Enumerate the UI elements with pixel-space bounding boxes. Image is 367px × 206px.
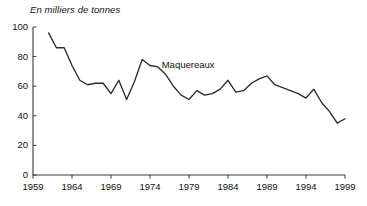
x-tick-label: 1969 bbox=[91, 181, 131, 192]
chart-series-lines bbox=[49, 33, 345, 123]
y-tick-label: 20 bbox=[4, 139, 28, 150]
chart-plot-area bbox=[0, 0, 367, 206]
chart-axes bbox=[33, 27, 345, 179]
x-tick-label: 1974 bbox=[130, 181, 170, 192]
y-tick-label: 80 bbox=[4, 51, 28, 62]
series-annotation-label: Maquereaux bbox=[162, 59, 215, 70]
x-tick-label: 1999 bbox=[325, 181, 365, 192]
y-tick-label: 60 bbox=[4, 80, 28, 91]
axis-lines bbox=[33, 27, 345, 175]
series-line-0 bbox=[49, 33, 345, 123]
y-tick-label: 100 bbox=[4, 21, 28, 32]
x-tick-label: 1984 bbox=[208, 181, 248, 192]
x-tick-label: 1979 bbox=[169, 181, 209, 192]
chart-container: En milliers de tonnes 020406080100 19591… bbox=[0, 0, 367, 206]
y-tick-label: 40 bbox=[4, 110, 28, 121]
x-tick-label: 1989 bbox=[247, 181, 287, 192]
y-tick-label: 0 bbox=[4, 169, 28, 180]
x-tick-label: 1994 bbox=[286, 181, 326, 192]
x-tick-label: 1959 bbox=[13, 181, 53, 192]
x-tick-label: 1964 bbox=[52, 181, 92, 192]
